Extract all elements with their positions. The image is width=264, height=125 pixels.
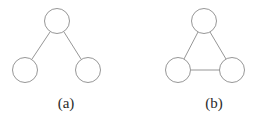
graph-edge-top-to-bottom-right (210, 32, 226, 59)
graph-edge-top-to-bottom-right (64, 32, 81, 59)
graph-node-top (45, 9, 70, 34)
graph-diagram-b (132, 0, 264, 95)
graph-edge-top-to-bottom-left (184, 32, 198, 59)
panel-label-b: (b) (132, 93, 264, 113)
graph-node-bottom-right (220, 58, 245, 83)
graph-node-bottom-left (13, 58, 38, 83)
panel-label-a: (a) (0, 93, 132, 113)
graph-node-bottom-left (166, 58, 191, 83)
graph-node-bottom-right (76, 58, 101, 83)
figure-panel-b: (b) (132, 0, 264, 125)
figure-panel-a: (a) (0, 0, 132, 125)
graph-edge-top-to-bottom-left (32, 32, 50, 59)
graph-node-top (192, 9, 217, 34)
figure-root: (a) (b) (0, 0, 264, 125)
graph-diagram-a (0, 0, 132, 95)
